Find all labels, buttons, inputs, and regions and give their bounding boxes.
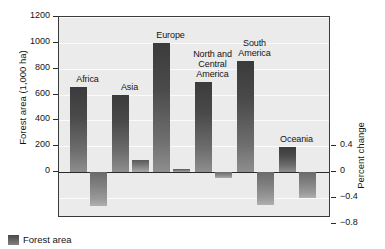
y-tick-label-left: 800 <box>10 63 50 72</box>
category-label: Europe <box>131 30 211 40</box>
y-tick-label-right: 0 <box>340 166 370 175</box>
bar-percent-change <box>132 160 149 172</box>
bar-percent-change <box>299 172 316 198</box>
gridline <box>59 95 329 96</box>
y-tick-mark-right <box>331 145 336 146</box>
y-tick-label-left: 400 <box>10 114 50 123</box>
y-tick-label-right: −0.4 <box>340 192 370 201</box>
bar-forest-area <box>195 82 212 172</box>
y-tick-label-left: 1000 <box>10 37 50 46</box>
bar-forest-area <box>70 87 87 172</box>
y-tick-label-left: 1200 <box>10 11 50 20</box>
forest-area-chart: Forest area (1,000 ha) Percent change 12… <box>0 0 385 249</box>
y-tick-label-left: 0 <box>10 166 50 175</box>
category-label: South America <box>215 38 295 58</box>
y-tick-mark-right <box>331 197 336 198</box>
bar-percent-change <box>90 172 107 206</box>
y-tick-mark-right <box>331 171 336 172</box>
y-tick-label-left: 200 <box>10 140 50 149</box>
category-label: Asia <box>90 82 170 92</box>
y-tick-label-left: 600 <box>10 89 50 98</box>
y-tick-mark-right <box>331 223 336 224</box>
bar-forest-area <box>279 147 296 172</box>
bar-forest-area <box>112 95 129 173</box>
gridline <box>59 17 329 18</box>
y-tick-label-right: −0.8 <box>340 218 370 227</box>
bar-forest-area <box>153 43 170 172</box>
bar-percent-change <box>215 172 232 178</box>
gridline <box>59 120 329 121</box>
bar-percent-change <box>257 172 274 205</box>
y-tick-label-right: 0.4 <box>340 140 370 149</box>
bar-percent-change <box>173 169 190 172</box>
category-label: Oceania <box>257 134 337 144</box>
legend-swatch-forest-area <box>8 235 19 245</box>
legend: Forest area <box>8 234 72 245</box>
legend-label-forest-area: Forest area <box>23 234 72 245</box>
